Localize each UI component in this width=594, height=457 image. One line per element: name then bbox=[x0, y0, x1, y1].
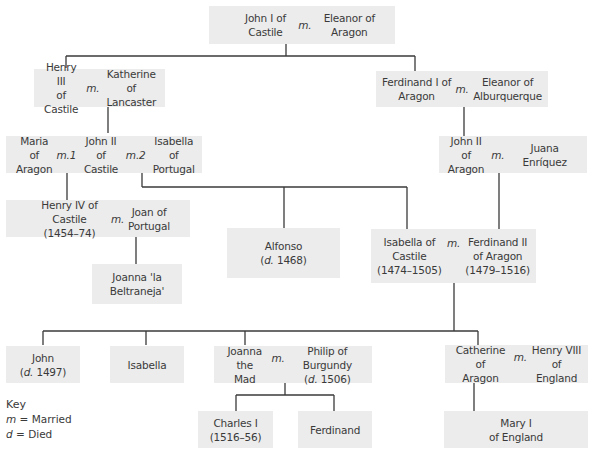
died-marker: d. bbox=[308, 373, 318, 385]
legend-item-died: d = Died bbox=[6, 427, 72, 442]
person-isabella: Isabella bbox=[110, 346, 184, 383]
couple-ferdinand-i-eleanor: Ferdinand I of Aragon m. Eleanor of Albu… bbox=[376, 71, 548, 107]
married-marker: m. bbox=[491, 148, 504, 162]
person-isabella-of-castile: Isabella of Castile (1474–1505) bbox=[377, 235, 442, 277]
couple-henry-iii-katherine: Henry III of Castile m. Katherine of Lan… bbox=[34, 69, 165, 107]
person-mary-i-of-england: Mary I of England bbox=[444, 411, 588, 448]
married-marker: m. bbox=[447, 236, 460, 250]
legend-key: Key m = Married d = Died bbox=[6, 397, 72, 442]
married-marker: m. bbox=[514, 350, 527, 364]
person-ferdinand: Ferdinand bbox=[298, 411, 372, 448]
person-henry-iv-of-castile: Henry IV of Castile (1454–74) bbox=[32, 198, 107, 240]
married-marker: m. bbox=[271, 351, 284, 365]
person-name: Isabella bbox=[128, 358, 167, 372]
died-year: 1468 bbox=[274, 254, 303, 266]
person-maria-of-aragon: Maria of Aragon bbox=[16, 134, 52, 176]
legend-item-married: m = Married bbox=[6, 412, 72, 427]
married-marker-1: m.1 bbox=[56, 148, 76, 162]
person-john-ii-of-aragon: John II of Aragon bbox=[445, 134, 487, 176]
person-eleanor-of-alburquerque: Eleanor of Alburquerque bbox=[473, 75, 542, 103]
person-henry-iii-of-castile: Henry III of Castile bbox=[40, 60, 82, 116]
person-eleanor-of-aragon: Eleanor of Aragon bbox=[324, 11, 375, 39]
person-isabella-of-portugal: Isabella of Portugal bbox=[150, 134, 198, 176]
person-john-ii-of-castile: John II of Castile bbox=[80, 134, 122, 176]
person-alfonso: Alfonso (d. 1468) bbox=[227, 228, 340, 278]
person-name: Ferdinand bbox=[310, 423, 360, 437]
death-info: (d. 1497) bbox=[20, 365, 66, 379]
person-name: Mary I of England bbox=[489, 416, 543, 444]
married-marker: m. bbox=[111, 212, 124, 226]
person-joanna-la-beltraneja: Joanna 'la Beltraneja' bbox=[92, 264, 182, 304]
married-marker: m. bbox=[456, 82, 469, 96]
couple-john-i-eleanor: John I of Castile m. Eleanor of Aragon bbox=[209, 6, 395, 44]
person-henry-viii-of-england: Henry VIII of England bbox=[531, 343, 582, 385]
couple-henry-iv-joan: Henry IV of Castile (1454–74) m. Joan of… bbox=[6, 200, 190, 237]
couple-john-ii-of-castile-wives: Maria of Aragon m.1 John II of Castile m… bbox=[6, 136, 202, 173]
died-marker: d. bbox=[24, 366, 34, 378]
legend-meaning: = Married bbox=[20, 413, 72, 425]
person-ferdinand-ii-of-aragon: Ferdinand II of Aragon (1479–1516) bbox=[465, 235, 530, 277]
person-joanna-the-mad: Joanna the Mad bbox=[222, 344, 267, 386]
death-info: (d. 1468) bbox=[260, 253, 306, 267]
couple-catherine-henry-viii: Catherine of Aragon m. Henry VIII of Eng… bbox=[445, 345, 588, 383]
person-philip-of-burgundy: Philip of Burgundy (d. 1506) bbox=[289, 344, 366, 386]
person-john-i-of-castile: John I of Castile bbox=[245, 11, 286, 39]
person-catherine-of-aragon: Catherine of Aragon bbox=[451, 343, 510, 385]
married-marker: m. bbox=[86, 81, 99, 95]
person-ferdinand-i-of-aragon: Ferdinand I of Aragon bbox=[382, 75, 451, 103]
person-name: Philip of Burgundy bbox=[289, 344, 366, 372]
married-marker: m. bbox=[298, 18, 311, 32]
person-name: John bbox=[32, 351, 54, 365]
family-tree: John I of Castile m. Eleanor of Aragon H… bbox=[0, 0, 594, 457]
person-name: Alfonso bbox=[265, 239, 302, 253]
person-charles-i: Charles I (1516–56) bbox=[198, 411, 273, 448]
person-name: Joanna 'la Beltraneja' bbox=[110, 270, 165, 298]
legend-symbol: d bbox=[6, 428, 13, 440]
legend-symbol: m bbox=[6, 413, 16, 425]
died-year: 1497 bbox=[33, 366, 62, 378]
legend-meaning: = Died bbox=[16, 428, 52, 440]
couple-john-ii-of-aragon-juana: John II of Aragon m. Juana Enríquez bbox=[439, 136, 587, 173]
married-marker-2: m.2 bbox=[126, 148, 146, 162]
couple-joanna-philip: Joanna the Mad m. Philip of Burgundy (d.… bbox=[214, 346, 372, 383]
person-john: John (d. 1497) bbox=[6, 346, 80, 383]
death-info: (d. 1506) bbox=[304, 372, 350, 386]
couple-isabella-ferdinand-ii: Isabella of Castile (1474–1505) m. Ferdi… bbox=[371, 229, 536, 283]
died-marker: d. bbox=[264, 254, 274, 266]
person-joan-of-portugal: Joan of Portugal bbox=[128, 205, 170, 233]
legend-title: Key bbox=[6, 397, 72, 412]
person-name: Charles I (1516–56) bbox=[210, 416, 262, 444]
person-juana-enriquez: Juana Enríquez bbox=[508, 141, 581, 169]
person-katherine-of-lancaster: Katherine of Lancaster bbox=[104, 67, 160, 109]
died-year: 1506 bbox=[318, 373, 347, 385]
